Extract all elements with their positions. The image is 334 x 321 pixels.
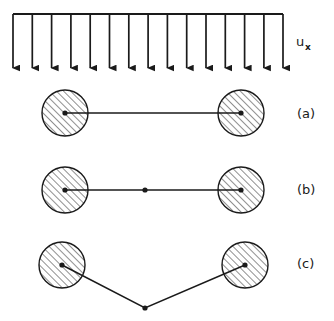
load-label-subscript-x: x [305,42,311,52]
case-label-a: (a) [297,106,315,121]
node-dot [242,262,247,267]
node-dot [62,110,67,115]
node-dot [142,187,147,192]
figure-svg: (a)(b)(c) u x [0,0,334,321]
deformation-cases-group: (a)(b)(c) [39,90,315,311]
figure-canvas: (a)(b)(c) u x [0,0,334,321]
case-label-b: (b) [297,182,315,197]
node-dot [62,187,67,192]
case-a: (a) [42,90,315,136]
distributed-load-group [13,14,283,68]
connector-line [62,265,245,308]
case-b: (b) [42,167,315,213]
node-dot [142,305,147,310]
load-label-u: u [296,34,304,49]
node-dot [59,262,64,267]
node-dot [238,110,243,115]
node-dot [238,187,243,192]
case-label-c: (c) [297,256,314,271]
case-c: (c) [39,242,314,311]
